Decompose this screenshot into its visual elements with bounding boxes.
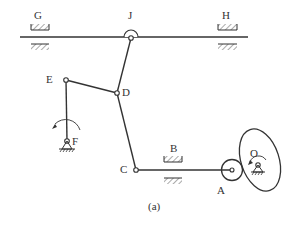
link-ed [66, 80, 117, 93]
label-j: J [128, 9, 133, 21]
cam-o [232, 124, 288, 197]
linkage-diagram: G J H E D F C B A O (a) [0, 0, 290, 225]
joint-d [115, 91, 120, 96]
arrowhead-o-icon [248, 160, 253, 165]
label-c: C [120, 163, 127, 175]
link-ef [66, 80, 67, 141]
label-d: D [122, 86, 130, 98]
label-h: H [222, 9, 230, 21]
joint-a [230, 168, 234, 172]
label-f: F [72, 135, 78, 147]
rotation-arrow-f-icon [55, 120, 80, 130]
joint-e [64, 78, 69, 83]
figure-caption: (a) [148, 200, 161, 213]
arrowhead-f-icon [52, 124, 57, 129]
ground-pivot-o [251, 163, 265, 175]
joint-c [134, 168, 139, 173]
label-a: A [217, 184, 225, 196]
label-b: B [170, 142, 177, 154]
label-e: E [46, 73, 53, 85]
joint-j [129, 36, 134, 41]
label-o: O [250, 147, 258, 159]
link-dc [117, 93, 136, 170]
link-jd [117, 38, 131, 93]
label-g: G [34, 9, 42, 21]
